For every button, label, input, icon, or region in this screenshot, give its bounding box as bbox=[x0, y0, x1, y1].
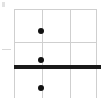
figure-canvas bbox=[0, 0, 104, 98]
marker-lower bbox=[38, 85, 44, 91]
left-edge-tick bbox=[2, 49, 11, 50]
marker-middle bbox=[38, 57, 44, 63]
marker-upper bbox=[38, 28, 44, 34]
grid-vertical-line-2 bbox=[70, 10, 71, 98]
grid-horizontal-line-1 bbox=[15, 42, 96, 43]
thick-horizontal-bar bbox=[14, 65, 101, 69]
top-left-corner-mark bbox=[2, 2, 5, 7]
three-by-three-grid bbox=[14, 9, 97, 98]
